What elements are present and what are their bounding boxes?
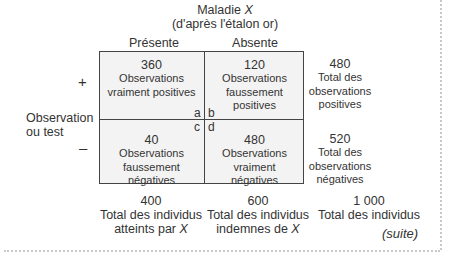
row-sign-negative: – xyxy=(79,141,91,155)
continuation-note: (suite) xyxy=(382,227,442,241)
row-total-negative: 520 Total des observations négatives xyxy=(305,132,375,187)
dotted-frame-bottom xyxy=(4,250,440,252)
table-subtitle: (d'après l'étalon or) xyxy=(130,17,320,31)
row-sign-positive: + xyxy=(78,75,90,89)
column-header-absente: Absente xyxy=(205,36,305,50)
cell-corner-c: c xyxy=(194,121,200,133)
cell-d-true-negatives: 480 Observations vraiment négatives xyxy=(204,133,305,188)
cell-c-false-negatives: 40 Observations faussement négatives xyxy=(100,133,203,188)
table-title: Maladie X xyxy=(150,3,300,17)
grand-total: 1 000 Total des individus xyxy=(314,194,424,222)
dotted-frame-right xyxy=(440,0,442,250)
contingency-table: 360 Observations vraiment positives a 12… xyxy=(99,51,304,184)
cell-a-true-positives: 360 Observations vraiment positives xyxy=(100,58,203,99)
row-axis-label: Observation ou test xyxy=(26,111,106,139)
column-total-absente: 600 Total des individus indemnes de X xyxy=(203,194,313,236)
cell-b-false-positives: 120 Observations faussement positives xyxy=(204,58,305,113)
cell-corner-d: d xyxy=(208,121,215,133)
row-total-positive: 480 Total des observations positives xyxy=(305,57,375,112)
column-total-presente: 400 Total des individus atteints par X xyxy=(96,194,206,236)
cell-corner-a: a xyxy=(194,107,201,119)
cell-corner-b: b xyxy=(208,107,215,119)
horizontal-divider xyxy=(100,119,303,120)
column-header-presente: Présente xyxy=(104,36,204,50)
